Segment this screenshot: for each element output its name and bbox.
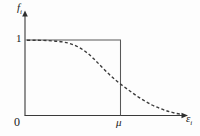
x-axis-label-subscript: i	[190, 119, 192, 127]
plot-canvas	[0, 0, 200, 136]
x-tick-label-mu: μ	[116, 117, 122, 128]
step-function-curve	[26, 40, 121, 116]
y-axis	[22, 11, 28, 116]
y-axis-label: fi	[17, 2, 22, 16]
y-tick-label-one: 1	[16, 33, 22, 44]
fermi-dirac-curve	[27, 40, 181, 114]
origin-tick-label-zero: 0	[14, 116, 20, 128]
x-axis	[25, 113, 189, 119]
x-axis-label: εi	[186, 113, 192, 127]
y-axis-label-subscript: i	[20, 8, 22, 16]
fermi-dirac-distribution-figure: fi εi 1 0 μ	[0, 0, 200, 136]
